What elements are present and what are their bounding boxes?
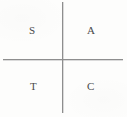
quadrant-label-upper-left: S	[29, 25, 35, 36]
astc-quadrant-diagram: S A T C	[0, 0, 127, 117]
quadrant-label-upper-right: A	[87, 25, 95, 36]
quadrant-label-lower-left: T	[30, 81, 37, 92]
vertical-axis-line	[62, 2, 63, 113]
quadrant-label-lower-right: C	[87, 81, 94, 92]
horizontal-axis-line	[3, 59, 123, 60]
